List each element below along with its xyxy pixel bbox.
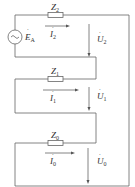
circuit-diagram: Z2 Z1 Z0 EA · I2 I1 I0 U2 U1 U0 ··· ···: [0, 0, 135, 187]
label-z0: Z0: [51, 130, 59, 141]
label-z1: Z1: [51, 66, 59, 77]
label-source-ea: EA: [24, 32, 36, 43]
label-z2: Z2: [51, 2, 59, 13]
impedance-z1: [48, 77, 63, 82]
impedance-z2: [48, 13, 63, 18]
phasor-dots: ··· ···: [52, 25, 101, 158]
impedance-z0: [48, 141, 63, 146]
